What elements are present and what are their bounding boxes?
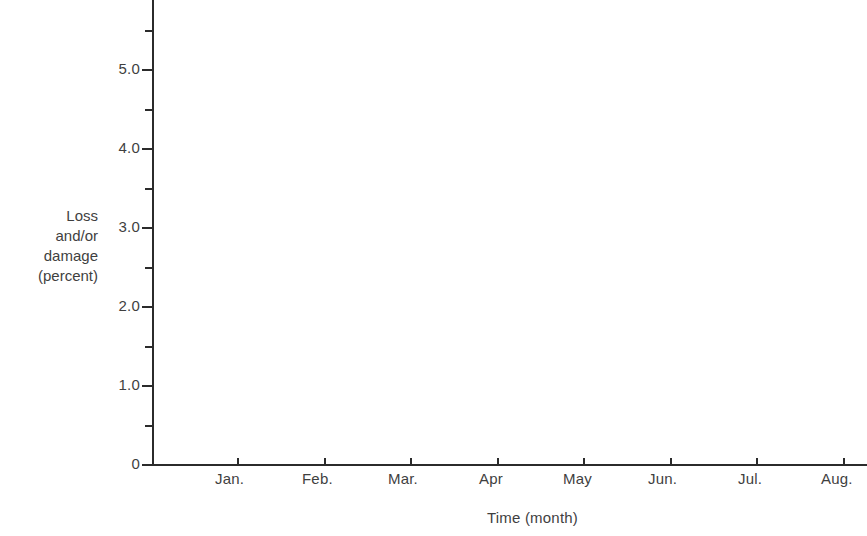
y-tick-label-0: 0 (131, 455, 140, 472)
y-tick-label-1.0: 1.0 (119, 376, 140, 393)
x-tick-Mar (410, 458, 412, 466)
y-tick-minor-4.5 (145, 109, 153, 111)
x-tick-label-Apr: Apr (479, 470, 503, 487)
y-tick-label-2.0: 2.0 (119, 297, 140, 314)
y-tick-major-3.0 (142, 227, 153, 229)
x-tick-Jun (670, 458, 672, 466)
y-axis-title-line-4: (percent) (0, 266, 98, 286)
plot-area (154, 0, 867, 464)
y-axis-title: Loss and/or damage (percent) (0, 206, 98, 286)
x-axis-title-text: Time (month) (487, 509, 578, 526)
x-axis-line (152, 464, 867, 466)
x-tick-label-May: May (563, 470, 592, 487)
y-axis-title-line-2: and/or (0, 226, 98, 246)
y-tick-minor-1.5 (145, 346, 153, 348)
x-tick-Apr (497, 458, 499, 466)
x-tick-label-Mar: Mar. (388, 470, 418, 487)
x-tick-label-Aug: Aug. (821, 470, 853, 487)
y-tick-minor-0.5 (145, 425, 153, 427)
x-axis-title: Time (month) (0, 509, 867, 526)
y-axis-title-line-1: Loss (0, 206, 98, 226)
x-tick-Jan (237, 458, 239, 466)
y-tick-minor-3.5 (145, 188, 153, 190)
y-tick-major-5.0 (142, 69, 153, 71)
x-tick-Aug (843, 458, 845, 466)
y-tick-major-1.0 (142, 385, 153, 387)
y-tick-major-4.0 (142, 148, 153, 150)
x-tick-Jul (756, 458, 758, 466)
y-tick-label-4.0: 4.0 (119, 139, 140, 156)
x-tick-Feb (324, 458, 326, 466)
x-tick-label-Jun: Jun. (648, 470, 677, 487)
y-tick-minor-2.5 (145, 267, 153, 269)
y-tick-major-2.0 (142, 306, 153, 308)
x-tick-label-Jan: Jan. (215, 470, 244, 487)
x-tick-May (583, 458, 585, 466)
x-tick-label-Jul: Jul. (738, 470, 762, 487)
y-axis-title-line-3: damage (0, 246, 98, 266)
y-tick-label-3.0: 3.0 (119, 218, 140, 235)
y-tick-minor-5.5 (145, 30, 153, 32)
chart-figure: 5.04.03.02.01.00 Jan.Feb.Mar.AprMayJun.J… (0, 0, 867, 536)
y-tick-major-0 (142, 464, 153, 466)
x-tick-label-Feb: Feb. (302, 470, 333, 487)
y-tick-label-5.0: 5.0 (119, 60, 140, 77)
